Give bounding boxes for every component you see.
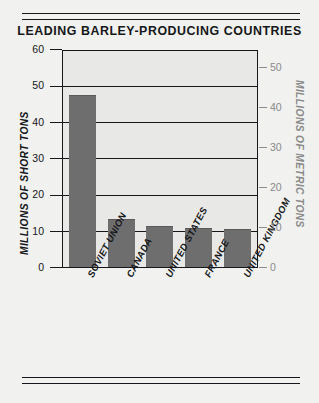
y-axis-primary-tick-label: 10 <box>14 225 44 237</box>
y-axis-secondary-tick-label: 30 <box>270 141 296 153</box>
y-axis-secondary-tick-label: 20 <box>270 181 296 193</box>
y-axis-secondary-tick-label: 50 <box>270 61 296 73</box>
y-axis-secondary-tick-label: 0 <box>270 261 296 273</box>
y-axis-secondary-tick <box>259 267 267 268</box>
y-axis-primary-tick-label: 20 <box>14 188 44 200</box>
y-axis-primary-tick-label: 40 <box>14 116 44 128</box>
y-axis-secondary-tick-label: 10 <box>270 221 296 233</box>
y-axis-secondary-tick <box>259 147 267 148</box>
bottom-divider-rule <box>22 377 300 384</box>
y-axis-primary-tick-label: 60 <box>14 43 44 55</box>
plot-area <box>62 50 258 268</box>
y-axis-primary-tick <box>50 86 62 87</box>
y-axis-secondary-tick <box>259 67 267 68</box>
chart-figure: LEADING BARLEY-PRODUCING COUNTRIES MILLI… <box>0 0 319 403</box>
top-divider-rule <box>22 13 300 20</box>
y-axis-secondary-tick <box>259 187 267 188</box>
chart-title: LEADING BARLEY-PRODUCING COUNTRIES <box>0 24 319 38</box>
y-axis-primary-tick <box>50 231 62 232</box>
y-axis-primary-tick-label: 0 <box>14 261 44 273</box>
y-axis-secondary-tick <box>259 107 267 108</box>
y-axis-secondary-tick-label: 40 <box>270 101 296 113</box>
y-axis-primary-tick <box>50 158 62 159</box>
y-axis-secondary-tick <box>259 227 267 228</box>
bar-series <box>63 51 257 267</box>
y-axis-primary-tick <box>50 267 62 268</box>
y-axis-primary-tick-label: 50 <box>14 79 44 91</box>
bar <box>69 95 96 267</box>
y-axis-primary-tick <box>50 49 62 50</box>
y-axis-primary-tick-label: 30 <box>14 152 44 164</box>
y-axis-primary-tick <box>50 122 62 123</box>
y-axis-primary-tick <box>50 195 62 196</box>
x-axis-category-labels: SOVIET UNIONCANADAUNITED STATESFRANCEUNI… <box>62 268 258 378</box>
